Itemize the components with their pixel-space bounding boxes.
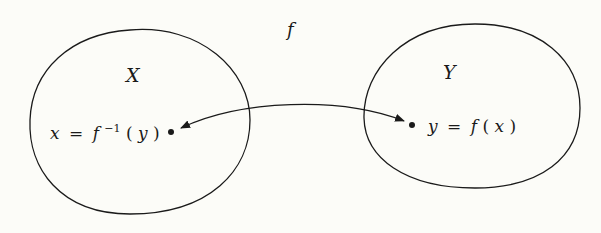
point-x (168, 129, 174, 135)
set-x-label: X (124, 64, 141, 86)
set-y-label: Y (443, 61, 458, 83)
bidirectional-arrow (181, 104, 404, 128)
element-y-label: y = f ( x ) (427, 116, 516, 136)
function-diagram: f X Y x = f −1 ( y ) y = f ( x ) (0, 0, 601, 233)
function-label: f (285, 19, 297, 40)
set-x-boundary (30, 29, 250, 214)
set-y-boundary (364, 24, 580, 188)
element-x-label: x = f −1 ( y ) (50, 116, 160, 143)
point-y (409, 122, 415, 128)
